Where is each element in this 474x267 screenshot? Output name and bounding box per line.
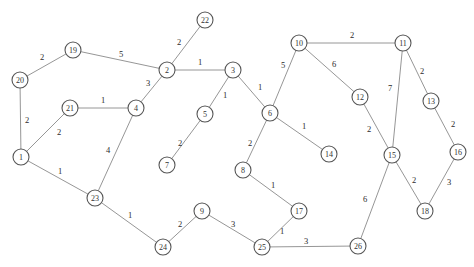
graph-node-26[interactable]: 26 (350, 238, 366, 254)
node-label: 7 (165, 161, 169, 170)
graph-edge (273, 50, 296, 105)
node-label: 26 (354, 242, 362, 251)
edge-weight-label: 1 (58, 166, 62, 176)
node-label: 16 (454, 148, 462, 157)
graph-svg: 2521321241112215262722236113321 12345678… (0, 0, 474, 267)
node-label: 9 (200, 207, 204, 216)
edge-weight-label: 1 (302, 121, 306, 131)
edge-weight-label: 2 (350, 30, 354, 40)
edge-weight-label: 3 (304, 236, 308, 246)
graph-edge (393, 51, 402, 147)
graph-node-7[interactable]: 7 (159, 157, 175, 173)
node-label: 6 (268, 109, 272, 118)
node-label: 25 (258, 243, 266, 252)
edge-weight-label: 2 (420, 66, 424, 76)
graph-node-8[interactable]: 8 (235, 162, 251, 178)
node-label: 2 (165, 66, 169, 75)
graph-node-16[interactable]: 16 (450, 144, 466, 160)
node-label: 18 (421, 207, 429, 216)
node-label: 13 (427, 97, 435, 106)
graph-node-9[interactable]: 9 (194, 203, 210, 219)
edge-weight-label: 2 (412, 175, 416, 185)
graph-edge (172, 120, 200, 158)
graph-edge (396, 162, 421, 204)
edge-weight-label: 2 (178, 219, 182, 229)
edge-weight-label: 1 (101, 95, 105, 105)
graph-node-6[interactable]: 6 (262, 105, 278, 121)
node-label: 17 (295, 207, 303, 216)
graph-node-12[interactable]: 12 (352, 89, 368, 105)
edge-weight-label: 1 (280, 226, 284, 236)
graph-edge (98, 115, 132, 190)
node-label: 11 (399, 39, 407, 48)
node-label: 14 (325, 150, 333, 159)
graph-node-10[interactable]: 10 (291, 35, 307, 51)
edge-weight-label: 4 (106, 145, 111, 155)
graph-node-2[interactable]: 2 (159, 62, 175, 78)
graph-node-23[interactable]: 23 (87, 190, 103, 206)
node-label: 3 (231, 66, 235, 75)
edge-weight-label: 1 (198, 57, 202, 67)
graph-node-1[interactable]: 1 (13, 149, 29, 165)
node-label: 10 (295, 39, 303, 48)
edge-weight-label: 2 (451, 119, 455, 129)
graph-edge (169, 216, 196, 241)
edge-weight-label: 2 (248, 138, 252, 148)
graph-edge (406, 50, 427, 94)
edge-weight-label: 3 (231, 219, 235, 229)
edge-weight-label: 2 (25, 115, 29, 125)
edge-weight-label: 6 (363, 194, 367, 204)
graph-edge (277, 118, 323, 150)
node-label: 1 (19, 153, 23, 162)
graph-node-15[interactable]: 15 (384, 147, 400, 163)
graph-node-4[interactable]: 4 (128, 100, 144, 116)
edge-weight-label: 1 (271, 180, 275, 190)
graph-diagram: 2521321241112215262722236113321 12345678… (0, 0, 474, 267)
graph-node-13[interactable]: 13 (423, 93, 439, 109)
edge-weight-label: 6 (332, 59, 336, 69)
edge-weight-label: 1 (258, 82, 262, 92)
edge-weight-label: 2 (40, 52, 44, 62)
edge-weight-label: 2 (57, 127, 61, 137)
graph-edge (270, 246, 350, 247)
graph-node-18[interactable]: 18 (417, 203, 433, 219)
edge-weight-label: 5 (281, 60, 285, 70)
edges-layer (20, 26, 454, 247)
graph-edge (305, 48, 354, 91)
edge-weight-label: 2 (177, 37, 181, 47)
edge-weight-label: 1 (223, 90, 227, 100)
graph-node-3[interactable]: 3 (225, 62, 241, 78)
graph-node-20[interactable]: 20 (12, 72, 28, 88)
graph-node-19[interactable]: 19 (65, 42, 81, 58)
node-label: 24 (159, 243, 167, 252)
edge-weights-layer: 2521321241112215262722236113321 (25, 30, 455, 246)
node-label: 21 (66, 104, 74, 113)
node-label: 19 (69, 46, 77, 55)
graph-node-17[interactable]: 17 (291, 203, 307, 219)
graph-node-25[interactable]: 25 (254, 239, 270, 255)
node-label: 15 (388, 151, 396, 160)
edge-weight-label: 1 (128, 210, 132, 220)
graph-node-14[interactable]: 14 (321, 146, 337, 162)
edge-weight-label: 2 (178, 138, 182, 148)
node-label: 5 (203, 110, 207, 119)
edge-weight-label: 2 (367, 124, 371, 134)
graph-node-5[interactable]: 5 (197, 106, 213, 122)
graph-node-11[interactable]: 11 (395, 35, 411, 51)
graph-edge (27, 54, 66, 76)
node-label: 23 (91, 194, 99, 203)
node-label: 20 (16, 76, 24, 85)
graph-node-22[interactable]: 22 (197, 12, 213, 28)
node-label: 12 (356, 93, 364, 102)
node-label: 8 (241, 166, 245, 175)
edge-weight-label: 3 (146, 78, 150, 88)
edge-weight-label: 3 (447, 177, 451, 187)
graph-node-21[interactable]: 21 (62, 100, 78, 116)
graph-node-24[interactable]: 24 (155, 239, 171, 255)
graph-edge (101, 203, 156, 243)
node-label: 22 (201, 16, 209, 25)
edge-weight-label: 7 (388, 83, 392, 93)
nodes-layer: 1234567891011121314151617181920212223242… (12, 12, 466, 255)
node-label: 4 (134, 104, 138, 113)
graph-edge (20, 88, 21, 149)
